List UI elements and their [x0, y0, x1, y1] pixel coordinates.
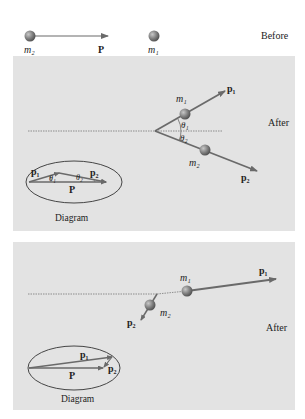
- after-label: After: [268, 117, 290, 128]
- label-m2: m₂: [160, 307, 171, 318]
- diagram-p1-arrow: [29, 357, 112, 368]
- label-m1: m₁: [148, 44, 159, 55]
- collision-diagram: m₂ P m₁ Before m₁ p₁ θ₁ θ₂ m₂ p₂ After p…: [0, 0, 305, 419]
- diagram-label-P: P: [69, 370, 75, 381]
- label-p2: p₂: [127, 317, 136, 328]
- label-m2: m₂: [189, 157, 200, 168]
- ball-m1-icon: [149, 31, 160, 42]
- before-label: Before: [261, 30, 289, 41]
- diagram-label-theta2: θ₂: [76, 173, 83, 182]
- label-p2: p₂: [241, 172, 250, 183]
- p1-arrow: [187, 279, 276, 291]
- label-p1: p₁: [259, 265, 268, 276]
- vector-diagram-1: p₁ θ₁ θ₂ p₂ P Diagram: [26, 161, 122, 223]
- before-section: m₂ P m₁ Before: [24, 30, 289, 55]
- diagram-label-p2: p₂: [90, 167, 99, 178]
- diagram-label-theta1: θ₁: [49, 174, 56, 183]
- ball-m1-icon: [180, 109, 191, 120]
- ball-m2-icon: [25, 31, 36, 42]
- ball-m2-icon: [200, 145, 211, 156]
- label-p1: p₁: [227, 83, 236, 94]
- label-theta2: θ₂: [180, 133, 188, 143]
- ball-m2-icon: [145, 300, 156, 311]
- diagram-label-p1: p₁: [80, 349, 89, 360]
- diagram-label-p1: p₁: [31, 166, 40, 177]
- p1-arrow: [155, 91, 225, 131]
- after1-section: m₁ p₁ θ₁ θ₂ m₂ p₂ After p₁ θ₁ θ₂ p₂ P Di…: [26, 83, 290, 223]
- after-label: After: [266, 322, 288, 333]
- diagram-label-p2: p₂: [108, 363, 117, 374]
- ball-m1-icon: [182, 286, 193, 297]
- label-P: P: [98, 44, 104, 55]
- label-theta1: θ₁: [181, 120, 189, 130]
- diagram-caption: Diagram: [55, 213, 89, 223]
- diagram-label-P: P: [69, 184, 75, 195]
- label-m2: m₂: [24, 44, 35, 55]
- after2-section: m₁ p₁ m₂ p₂ After p₁ p₂ P Diagram: [28, 265, 288, 404]
- diagram-caption: Diagram: [61, 394, 95, 404]
- label-m1: m₁: [180, 272, 191, 283]
- vector-diagram-2: p₁ p₂ P Diagram: [28, 346, 120, 404]
- label-m1: m₁: [176, 93, 187, 104]
